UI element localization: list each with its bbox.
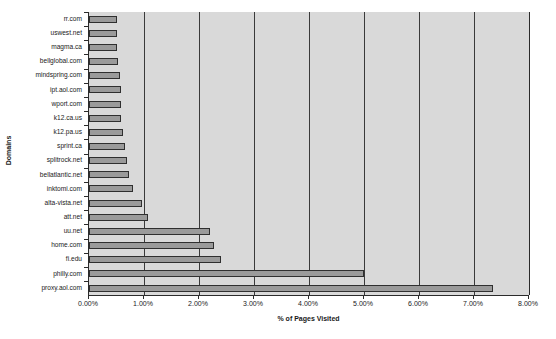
bar-row [89,125,529,139]
category-label: k12.ca.us [18,111,86,125]
bar-row [89,239,529,253]
category-label: bellglobal.com [18,54,86,68]
category-label: att.net [18,210,86,224]
bar-row [89,267,529,281]
category-label: splitrock.net [18,154,86,168]
bar [89,129,123,136]
x-axis-title: % of Pages Visited [88,315,529,322]
bar-row [89,210,529,224]
y-axis-category-labels: rr.comuswest.netmagma.cabellglobal.commi… [18,12,86,295]
bar [89,256,221,263]
x-axis-tick [198,295,199,299]
x-axis-tick-label: 3.00% [243,300,263,307]
x-axis-tick-label: 0.00% [78,300,98,307]
bar-series [89,12,529,295]
x-axis-tick [253,295,254,299]
category-label: ipt.aol.com [18,83,86,97]
bar [89,115,121,122]
bar [89,285,493,292]
category-label: inktomi.com [18,182,86,196]
bar-row [89,40,529,54]
bar-row [89,12,529,26]
y-axis-title-label: Domains [6,135,13,165]
x-axis-tick [143,295,144,299]
bar [89,242,214,249]
bar [89,16,117,23]
category-label: alta-vista.net [18,196,86,210]
category-label: wport.com [18,97,86,111]
x-axis-tick [88,295,89,299]
bar-row [89,196,529,210]
bar-row [89,154,529,168]
bar-row [89,26,529,40]
bar [89,214,148,221]
bar-row [89,168,529,182]
x-axis-tick-label: 8.00% [518,300,538,307]
category-label: uswest.net [18,26,86,40]
bar [89,171,129,178]
x-axis-tick-labels: 0.00%1.00%2.00%3.00%4.00%5.00%6.00%7.00%… [88,300,529,312]
bar [89,72,120,79]
category-label: home.com [18,239,86,253]
bar [89,30,117,37]
bar-row [89,83,529,97]
bar [89,44,117,51]
bar-row [89,182,529,196]
category-label: sprint.ca [18,139,86,153]
bar-row [89,253,529,267]
x-axis-tick [363,295,364,299]
x-axis-tick [473,295,474,299]
bar-row [89,111,529,125]
x-axis-tick [528,295,529,299]
x-axis-tick-label: 4.00% [298,300,318,307]
category-label: k12.pa.us [18,125,86,139]
bar [89,228,210,235]
bar [89,86,121,93]
x-axis-tick-label: 7.00% [463,300,483,307]
bar-row [89,281,529,295]
bar [89,200,142,207]
plot-area [88,12,529,296]
bar [89,58,118,65]
x-axis-tick [308,295,309,299]
category-label: mindspring.com [18,69,86,83]
bar [89,157,127,164]
bar [89,185,133,192]
bar [89,270,364,277]
bar-row [89,54,529,68]
x-axis-tick-label: 2.00% [188,300,208,307]
bar-chart: Domains rr.comuswest.netmagma.cabellglob… [0,0,556,339]
category-label: bellatlantic.net [18,168,86,182]
y-axis-title: Domains [0,0,18,300]
x-axis-tick-label: 5.00% [353,300,373,307]
bar-row [89,224,529,238]
bar [89,101,121,108]
x-axis-tick-label: 1.00% [133,300,153,307]
gridline [529,12,530,295]
category-label: philly.com [18,267,86,281]
x-axis-tick [418,295,419,299]
category-label: fi.edu [18,253,86,267]
category-label: uu.net [18,224,86,238]
category-label: magma.ca [18,40,86,54]
bar-row [89,69,529,83]
category-label: rr.com [18,12,86,26]
category-label: proxy.aol.com [18,281,86,295]
bar-row [89,139,529,153]
bar-row [89,97,529,111]
x-axis-tick-label: 6.00% [408,300,428,307]
bar [89,143,125,150]
